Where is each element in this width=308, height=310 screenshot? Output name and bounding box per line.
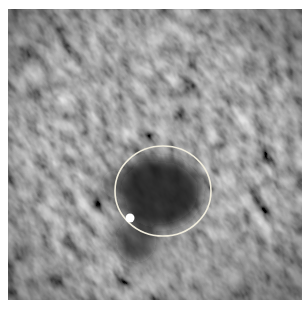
marker-dot: [126, 214, 135, 223]
image-frame: [8, 9, 302, 300]
vignette: [8, 9, 302, 300]
texture-image: [8, 9, 302, 300]
